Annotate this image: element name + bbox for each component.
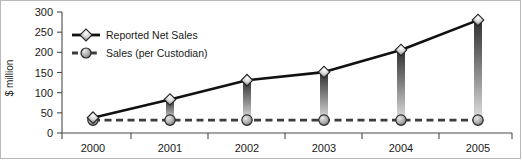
chart-container: 300 250 200 150 100 50 0 $ million 2000 …	[0, 0, 522, 160]
ytick-label-250: 250	[35, 26, 53, 38]
chart-legend: Reported Net Sales Sales (per Custodian)	[72, 29, 208, 59]
legend-label-sales-per-custodian: Sales (per Custodian)	[106, 47, 208, 59]
ytick-label-0: 0	[47, 127, 53, 139]
connector-bar-2005	[474, 20, 482, 120]
ytick-label-300: 300	[35, 6, 53, 18]
y-axis-title: $ million	[4, 60, 15, 97]
xtick-label-2003: 2003	[312, 142, 336, 154]
connector-bar-2004	[397, 50, 405, 121]
chart-plot: 300 250 200 150 100 50 0 $ million 2000 …	[0, 0, 522, 160]
ytick-label-150: 150	[35, 67, 53, 79]
legend-circle-marker-icon	[81, 48, 91, 58]
legend-item-reported-net-sales[interactable]: Reported Net Sales	[72, 29, 198, 41]
xtick-label-2002: 2002	[235, 142, 259, 154]
legend-diamond-marker-icon	[80, 29, 92, 41]
y-axis	[57, 12, 62, 133]
markers-sales-per-custodian	[88, 115, 483, 125]
ytick-label-100: 100	[35, 87, 53, 99]
xtick-label-2000: 2000	[81, 142, 105, 154]
connector-bar-2003	[320, 72, 328, 120]
xtick-label-2005: 2005	[466, 142, 490, 154]
legend-label-reported-net-sales: Reported Net Sales	[106, 29, 198, 41]
xtick-label-2001: 2001	[158, 142, 182, 154]
ytick-label-50: 50	[41, 107, 53, 119]
legend-item-sales-per-custodian[interactable]: Sales (per Custodian)	[72, 47, 208, 59]
ytick-label-200: 200	[35, 46, 53, 58]
x-axis	[62, 133, 512, 139]
xtick-label-2004: 2004	[389, 142, 413, 154]
